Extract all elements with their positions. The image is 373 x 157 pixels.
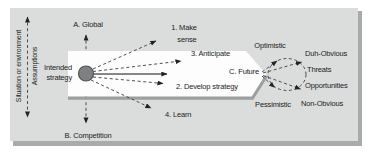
label-develop-strategy: 2. Develop strategy — [176, 82, 238, 91]
label-pessimistic: Pessimistic — [255, 100, 291, 109]
sidebar-label-situation: Situation or environment — [15, 30, 22, 102]
label-make-sense-line2: sense — [177, 35, 196, 44]
label-make-sense-line1: 1. Make — [171, 23, 197, 32]
label-b-competition: B. Competition — [64, 131, 111, 140]
label-optimistic: Optimistic — [254, 41, 286, 50]
label-non-obvious: Non-Obvious — [301, 99, 344, 108]
label-intended: Intended — [44, 63, 72, 72]
label-threats: Threats — [307, 65, 332, 74]
scenario-diagram: Situation or environment Assumptions A. … — [0, 0, 373, 157]
sidebar-label-assumptions: Assumptions — [31, 46, 39, 85]
label-anticipate: 3. Anticipate — [191, 49, 230, 58]
label-opportunities: Opportunities — [305, 81, 348, 90]
label-c-future: C. Future — [229, 67, 259, 76]
label-learn: 4. Learn — [165, 110, 191, 119]
label-strategy: strategy — [47, 73, 73, 82]
intended-strategy-node — [79, 66, 94, 81]
label-a-global: A. Global — [73, 20, 103, 29]
label-duh-obvious: Duh-Obvious — [305, 49, 348, 58]
